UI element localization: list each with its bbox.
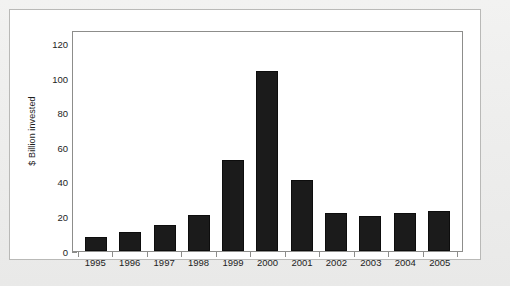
bar-2000[interactable] xyxy=(256,71,278,251)
x-tick-label: 1998 xyxy=(181,257,215,273)
bar-2002[interactable] xyxy=(325,213,347,251)
bar-1995[interactable] xyxy=(85,237,107,251)
bar-slot xyxy=(353,30,387,251)
bar-slot xyxy=(182,30,216,251)
y-tick-label: 120 xyxy=(52,39,72,50)
bars-layer xyxy=(73,30,462,251)
bar-2005[interactable] xyxy=(428,211,450,251)
x-tick-label: 1997 xyxy=(147,257,181,273)
bar-slot xyxy=(319,30,353,251)
bar-1996[interactable] xyxy=(119,232,141,251)
y-tick-label: 0 xyxy=(63,246,72,257)
bar-1999[interactable] xyxy=(222,160,244,252)
bar-1998[interactable] xyxy=(188,215,210,251)
x-tick-label: 1999 xyxy=(216,257,250,273)
bar-slot xyxy=(113,30,147,251)
bar-slot xyxy=(387,30,421,251)
x-tick-label: 2005 xyxy=(423,257,457,273)
x-tick-label: 2000 xyxy=(250,257,284,273)
bar-2004[interactable] xyxy=(394,213,416,251)
x-axis-labels: 1995199619971998199920002001200220032004… xyxy=(72,257,463,273)
x-tick-label: 1996 xyxy=(112,257,146,273)
bar-slot xyxy=(216,30,250,251)
x-tick-label: 2004 xyxy=(388,257,422,273)
bar-slot xyxy=(148,30,182,251)
y-tick-label: 40 xyxy=(57,177,72,188)
y-axis-ticks: 020406080100120 xyxy=(10,31,72,252)
bar-2001[interactable] xyxy=(291,180,313,251)
scanned-page: $ Billion invested 020406080100120 19951… xyxy=(0,0,510,286)
y-tick-label: 60 xyxy=(57,142,72,153)
x-tick-label: 2002 xyxy=(319,257,353,273)
bar-slot xyxy=(79,30,113,251)
bar-slot xyxy=(250,30,284,251)
x-tick-label: 1995 xyxy=(78,257,112,273)
y-tick-label: 100 xyxy=(52,73,72,84)
x-tick-label: 2003 xyxy=(354,257,388,273)
bar-slot xyxy=(422,30,456,251)
bar-slot xyxy=(285,30,319,251)
plot-area xyxy=(72,31,463,252)
bar-2003[interactable] xyxy=(359,216,381,251)
y-tick-label: 80 xyxy=(57,108,72,119)
x-tick-label: 2001 xyxy=(285,257,319,273)
figure-card: $ Billion invested 020406080100120 19951… xyxy=(9,9,481,260)
bar-1997[interactable] xyxy=(154,225,176,251)
y-tick-label: 20 xyxy=(57,211,72,222)
